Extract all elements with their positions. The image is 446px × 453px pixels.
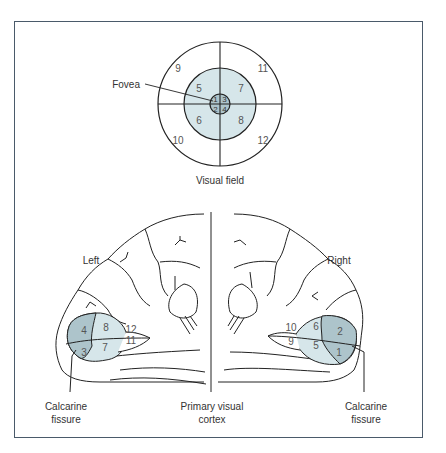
left-hemisphere: 4 3 8 7 12 11 Left xyxy=(56,214,206,392)
cortex-number: 11 xyxy=(126,335,137,346)
visual-pathway-diagram: Fovea 9 11 10 12 5 7 6 8 1 3 2 4 Visual … xyxy=(0,0,446,453)
left-label: Left xyxy=(83,255,100,266)
fovea-number: 2 xyxy=(213,105,218,114)
cortex-number: 10 xyxy=(285,322,297,333)
visual-field-caption: Visual field xyxy=(196,175,244,186)
cortex-number: 1 xyxy=(336,347,342,358)
fovea-number: 4 xyxy=(222,105,227,114)
field-number: 8 xyxy=(238,115,244,126)
sulcus xyxy=(145,229,168,296)
hatch-lines xyxy=(228,316,244,334)
fovea-number: 1 xyxy=(213,95,218,104)
sulcus-branch xyxy=(120,252,128,262)
right-calcarine-pointer xyxy=(352,346,364,392)
visual-field: Fovea 9 11 10 12 5 7 6 8 1 3 2 4 Visual … xyxy=(112,42,282,186)
cortex-number: 5 xyxy=(313,340,319,351)
sulcus-branch xyxy=(86,302,96,308)
cortex-number: 9 xyxy=(288,336,294,347)
sulcus xyxy=(234,261,276,268)
sulcus-branch xyxy=(175,236,186,245)
cortex-number: 6 xyxy=(313,321,319,332)
cortex-number: 12 xyxy=(125,324,137,335)
left-calcarine-pointer xyxy=(70,350,76,392)
temporal-lobe-outline xyxy=(169,284,198,318)
sulcus xyxy=(224,368,330,372)
sulcus xyxy=(120,368,205,372)
calcarine-fissure-right-line1: Calcarine xyxy=(345,401,388,412)
cortex-number: 3 xyxy=(81,347,87,358)
right-anterior-calcarine xyxy=(268,333,300,350)
sulcus-branch xyxy=(312,292,318,300)
primary-visual-cortex-line1: Primary visual xyxy=(181,401,244,412)
cortex-number: 7 xyxy=(102,342,108,353)
right-hemisphere: 2 1 6 5 10 9 Right xyxy=(218,214,364,392)
field-number: 9 xyxy=(175,63,181,74)
sulcus-branch xyxy=(234,240,246,245)
sulcus xyxy=(110,378,206,384)
fovea-number: 3 xyxy=(222,95,227,104)
cortex-number: 2 xyxy=(337,326,343,337)
calcarine-fissure-left-line1: Calcarine xyxy=(45,401,88,412)
field-number: 11 xyxy=(258,63,269,74)
field-number: 10 xyxy=(172,135,184,146)
sulcus xyxy=(286,259,328,306)
field-number: 6 xyxy=(196,115,202,126)
sulcus xyxy=(267,229,290,296)
calcarine-fissure-left-line2: fissure xyxy=(51,414,81,425)
primary-visual-cortex-line2: cortex xyxy=(198,414,225,425)
hatch-lines xyxy=(180,316,197,334)
sulcus xyxy=(160,261,200,268)
field-number: 5 xyxy=(196,83,202,94)
temporal-lobe-outline xyxy=(229,284,258,318)
sulcus xyxy=(326,290,356,310)
field-number: 12 xyxy=(257,135,269,146)
sulcus xyxy=(250,272,252,288)
calcarine-fissure-right-line2: fissure xyxy=(351,414,381,425)
fovea-label: Fovea xyxy=(112,79,140,90)
bottom-labels: Calcarine fissure Primary visual cortex … xyxy=(45,401,388,425)
cortex-number: 8 xyxy=(103,322,109,333)
cortex-number: 4 xyxy=(81,325,87,336)
field-number: 7 xyxy=(238,83,244,94)
right-label: Right xyxy=(327,255,351,266)
sulcus xyxy=(108,259,150,306)
